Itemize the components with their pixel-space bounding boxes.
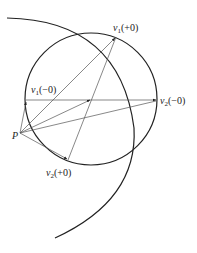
diagram-canvas: v1(+0) v1(−0) v2(−0) v2(+0) P: [0, 0, 197, 253]
ray-p-v2minus: [20, 101, 156, 133]
label-v2-plus: v2(+0): [46, 167, 71, 180]
label-p: P: [11, 130, 18, 141]
label-v2-minus: v2(−0): [160, 95, 185, 108]
large-arc: [7, 18, 134, 238]
label-v1-plus: v1(+0): [113, 22, 138, 35]
main-circle: [25, 33, 157, 165]
ray-p-center: [20, 100, 90, 133]
label-v1-minus: v1(−0): [31, 84, 56, 97]
chord-diagonal: [68, 37, 116, 160]
ray-p-v2plus: [20, 133, 67, 159]
